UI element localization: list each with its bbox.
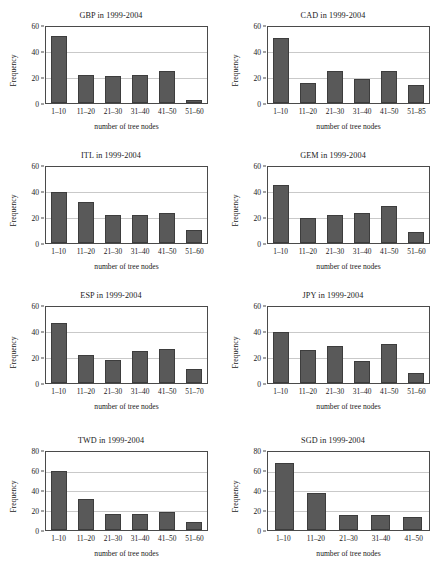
bar-series	[46, 27, 207, 103]
y-tick-mark	[41, 166, 44, 167]
y-tick-mark	[263, 244, 266, 245]
bar	[51, 192, 67, 243]
x-tick-label: 1–10	[45, 387, 72, 399]
y-tick-label: 20	[253, 507, 261, 516]
x-tick-label: 51–60	[403, 387, 430, 399]
bar-slot	[180, 27, 207, 103]
x-tick-label: 31–40	[365, 534, 398, 546]
bar-slot	[180, 307, 207, 383]
bar-slot	[268, 307, 295, 383]
bar	[78, 75, 94, 103]
plot-area	[267, 306, 430, 384]
y-axis-ticks: 0204060	[0, 166, 44, 244]
y-tick-mark	[41, 358, 44, 359]
x-axis-label: number of tree nodes	[267, 549, 430, 558]
chart-panel-itl: ITL in 1999-2004Frequency02040601–1011–2…	[0, 140, 222, 280]
bar-series	[46, 167, 207, 243]
bar	[132, 75, 148, 103]
bar-slot	[73, 27, 100, 103]
bar-slot	[153, 167, 180, 243]
bar	[381, 344, 397, 383]
y-tick-label: 0	[257, 240, 261, 249]
y-tick-mark	[41, 306, 44, 307]
x-axis-ticks: 1–1011–2021–3031–4041–50	[267, 534, 430, 546]
x-tick-label: 11–20	[72, 534, 99, 546]
histogram-grid: GBP in 1999-2004Frequency02040601–1011–2…	[0, 0, 444, 568]
y-tick-label: 20	[253, 354, 261, 363]
chart-title: ESP in 1999-2004	[0, 291, 222, 300]
y-tick-label: 20	[31, 507, 39, 516]
x-axis-ticks: 1–1011–2021–3031–4041–5051–60	[267, 247, 430, 259]
bar	[354, 213, 370, 243]
bar	[105, 76, 121, 103]
bar-slot	[73, 307, 100, 383]
y-tick-label: 40	[31, 48, 39, 57]
bar	[300, 218, 316, 243]
bar-slot	[268, 27, 295, 103]
x-axis-ticks: 1–1011–2021–3031–4041–5051–60	[45, 247, 208, 259]
y-tick-label: 20	[31, 74, 39, 83]
bar	[186, 522, 202, 530]
chart-panel-cad: CAD in 1999-2004Frequency02040601–1011–2…	[222, 0, 444, 140]
bar	[159, 213, 175, 243]
bar	[354, 79, 370, 103]
x-tick-label: 41–50	[154, 107, 181, 119]
y-tick-mark	[263, 531, 266, 532]
y-axis-ticks: 0204060	[222, 306, 266, 384]
x-axis-ticks: 1–1011–2021–3031–4041–5051–60	[45, 107, 208, 119]
bar-slot	[73, 167, 100, 243]
y-tick-label: 20	[253, 74, 261, 83]
chart-panel-gbp: GBP in 1999-2004Frequency02040601–1011–2…	[0, 0, 222, 140]
y-tick-label: 20	[31, 354, 39, 363]
x-tick-label: 51–60	[181, 534, 208, 546]
x-tick-label: 31–40	[127, 387, 154, 399]
bar-slot	[100, 27, 127, 103]
bar	[300, 350, 316, 383]
x-tick-label: 21–30	[99, 387, 126, 399]
y-tick-mark	[41, 244, 44, 245]
x-tick-label: 51–70	[181, 387, 208, 399]
y-tick-label: 20	[31, 214, 39, 223]
x-tick-label: 41–50	[376, 387, 403, 399]
y-axis-ticks: 0204060	[222, 26, 266, 104]
x-tick-label: 1–10	[267, 107, 294, 119]
bar-slot	[402, 167, 429, 243]
bar	[381, 71, 397, 103]
y-axis-ticks: 0204060	[222, 166, 266, 244]
bar	[78, 499, 94, 530]
x-tick-label: 21–30	[99, 107, 126, 119]
bar	[403, 517, 422, 530]
y-tick-label: 0	[257, 380, 261, 389]
x-tick-label: 21–30	[321, 107, 348, 119]
bar-slot	[126, 167, 153, 243]
plot-area	[267, 26, 430, 104]
y-tick-label: 60	[253, 162, 261, 171]
x-tick-label: 31–40	[349, 247, 376, 259]
bar	[159, 349, 175, 383]
y-tick-mark	[263, 358, 266, 359]
x-axis-label: number of tree nodes	[45, 549, 208, 558]
x-axis-label: number of tree nodes	[267, 262, 430, 271]
bar	[78, 355, 94, 383]
plot-area	[45, 451, 208, 531]
bar	[132, 514, 148, 530]
y-tick-label: 0	[35, 240, 39, 249]
x-axis-ticks: 1–1011–2021–3031–4041–5051–60	[45, 534, 208, 546]
x-tick-label: 11–20	[294, 387, 321, 399]
plot-area	[45, 26, 208, 104]
bar-slot	[295, 27, 322, 103]
x-tick-label: 41–50	[397, 534, 430, 546]
x-axis-label: number of tree nodes	[45, 122, 208, 131]
bar	[51, 36, 67, 103]
x-axis-label: number of tree nodes	[45, 402, 208, 411]
bar-slot	[322, 167, 349, 243]
y-tick-mark	[41, 531, 44, 532]
plot-area	[45, 166, 208, 244]
bar-series	[268, 167, 429, 243]
x-tick-label: 41–50	[154, 387, 181, 399]
x-tick-label: 31–40	[349, 107, 376, 119]
bar-slot	[268, 167, 295, 243]
bar-slot	[402, 307, 429, 383]
y-tick-mark	[263, 26, 266, 27]
y-tick-mark	[263, 218, 266, 219]
